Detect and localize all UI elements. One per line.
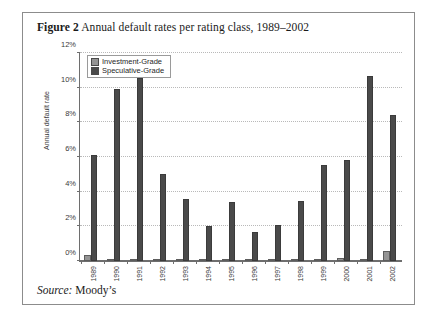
bar-speculative-grade [275, 225, 282, 261]
bar-speculative-grade [344, 160, 351, 261]
bar-investment-grade [245, 259, 252, 261]
x-tick-label: 1990 [113, 266, 120, 282]
bar-investment-grade [268, 259, 275, 261]
legend-item-speculative-grade: Speculative-Grade [91, 67, 164, 76]
y-tick-label: 0% [65, 248, 76, 257]
bars-layer: 1989199019911992199319941995199619971998… [80, 53, 402, 261]
x-tick-mark [242, 261, 243, 264]
bar-speculative-grade [160, 174, 167, 261]
x-tick-label: 1992 [159, 266, 166, 282]
y-tick-label: 6% [65, 144, 76, 153]
x-tick-mark [196, 261, 197, 264]
x-tick-mark [127, 261, 128, 264]
bar-group: 1997 [264, 53, 287, 261]
bar-speculative-grade [367, 76, 374, 261]
bar-group: 1993 [172, 53, 195, 261]
source-value: Moody’s [75, 284, 116, 296]
bar-investment-grade [107, 259, 114, 261]
x-tick-mark [357, 261, 358, 264]
x-tick-label: 2002 [389, 266, 396, 282]
bar-group: 1990 [103, 53, 126, 261]
bar-group: 2002 [379, 53, 402, 261]
bar-investment-grade [383, 251, 390, 261]
bar-speculative-grade [229, 202, 236, 261]
legend-label: Speculative-Grade [102, 67, 164, 76]
x-tick-label: 1995 [228, 266, 235, 282]
figure-title: Figure 2 Annual default rates per rating… [37, 21, 309, 33]
x-tick-label: 1989 [90, 266, 97, 282]
figure-number: Figure 2 [37, 21, 79, 33]
source-label: Source: [37, 284, 72, 296]
x-tick-mark [81, 261, 82, 264]
x-tick-label: 1999 [320, 266, 327, 282]
bar-investment-grade [153, 259, 160, 261]
bar-group: 1992 [149, 53, 172, 261]
bar-investment-grade [222, 259, 229, 261]
y-tick-label: 2% [65, 213, 76, 222]
bar-speculative-grade [114, 89, 121, 261]
bar-group: 2000 [333, 53, 356, 261]
bar-group: 2001 [356, 53, 379, 261]
x-tick-mark [173, 261, 174, 264]
x-tick-mark [104, 261, 105, 264]
x-tick-mark [265, 261, 266, 264]
bar-speculative-grade [137, 78, 144, 261]
x-tick-mark [150, 261, 151, 264]
bar-investment-grade [314, 259, 321, 261]
bar-speculative-grade [183, 199, 190, 261]
legend-swatch-icon [91, 58, 99, 66]
x-tick-mark [219, 261, 220, 264]
bar-speculative-grade [321, 165, 328, 261]
y-tick-label: 12% [61, 40, 76, 49]
bar-speculative-grade [91, 155, 98, 261]
bar-group: 1996 [241, 53, 264, 261]
legend-swatch-icon [91, 67, 99, 75]
chart-canvas: Annual default rate 0%2%4%6%8%10%12% 198… [31, 39, 408, 275]
bar-investment-grade [130, 259, 137, 261]
bar-investment-grade [176, 259, 183, 261]
chart-legend: Investment-GradeSpeculative-Grade [87, 55, 171, 78]
bar-group: 1999 [310, 53, 333, 261]
figure-panel: Figure 2 Annual default rates per rating… [22, 12, 415, 305]
x-tick-label: 1991 [136, 266, 143, 282]
bar-speculative-grade [390, 115, 397, 261]
x-tick-label: 1994 [205, 266, 212, 282]
x-tick-mark [334, 261, 335, 264]
y-tick-label: 10% [61, 74, 76, 83]
bar-group: 1989 [80, 53, 103, 261]
plot-area: 0%2%4%6%8%10%12% 19891990199119921993199… [79, 53, 402, 262]
x-tick-label: 1997 [274, 266, 281, 282]
x-tick-label: 2001 [366, 266, 373, 282]
y-axis-title: Annual default rate [43, 66, 50, 176]
bar-group: 1995 [218, 53, 241, 261]
x-tick-mark [288, 261, 289, 264]
bar-investment-grade [360, 259, 367, 261]
x-tick-label: 2000 [343, 266, 350, 282]
bar-investment-grade [337, 258, 344, 261]
x-tick-mark [380, 261, 381, 264]
bar-group: 1994 [195, 53, 218, 261]
bar-group: 1998 [287, 53, 310, 261]
bar-investment-grade [199, 259, 206, 261]
y-tick-label: 8% [65, 109, 76, 118]
x-tick-label: 1993 [182, 266, 189, 282]
bar-speculative-grade [206, 226, 213, 261]
bar-speculative-grade [252, 232, 259, 261]
y-tick-label: 4% [65, 178, 76, 187]
bar-investment-grade [291, 259, 298, 261]
bar-group: 1991 [126, 53, 149, 261]
figure-caption: Annual default rates per rating class, 1… [81, 21, 309, 33]
x-tick-label: 1998 [297, 266, 304, 282]
x-tick-mark [311, 261, 312, 264]
bar-speculative-grade [298, 201, 305, 261]
bar-investment-grade [84, 255, 91, 261]
source-note: Source: Moody’s [37, 284, 116, 296]
x-tick-label: 1996 [251, 266, 258, 282]
